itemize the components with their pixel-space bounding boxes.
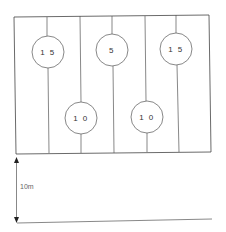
arrow-down-icon bbox=[14, 217, 19, 223]
circle-node-4: 1 0 bbox=[65, 102, 97, 134]
circle-node-1: 1 5 bbox=[32, 36, 64, 68]
column-line-1-bottom bbox=[48, 68, 49, 153]
circle-label-3: 1 5 bbox=[168, 45, 184, 54]
ground-line bbox=[17, 219, 212, 223]
diagram-canvas: 1 5 5 1 5 1 0 1 0 10m bbox=[0, 0, 226, 232]
circle-label-1: 1 5 bbox=[40, 48, 56, 57]
column-line-4 bbox=[145, 16, 146, 101]
dimension-label: 10m bbox=[20, 183, 34, 190]
circle-node-5: 1 0 bbox=[131, 101, 163, 133]
circle-node-2: 5 bbox=[96, 34, 128, 66]
column-line-2 bbox=[80, 16, 81, 102]
dimension-arrow: 10m bbox=[14, 157, 34, 223]
column-line-3-bottom bbox=[113, 66, 114, 153]
arrow-up-icon bbox=[14, 157, 19, 163]
column-line-5-bottom bbox=[177, 65, 179, 152]
circle-node-3: 1 5 bbox=[160, 33, 192, 65]
circle-label-5: 1 0 bbox=[139, 113, 155, 122]
circle-label-2: 5 bbox=[109, 46, 115, 55]
circle-label-4: 1 0 bbox=[73, 114, 89, 123]
